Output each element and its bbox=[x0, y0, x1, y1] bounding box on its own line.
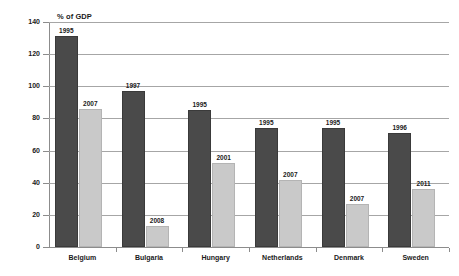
y-axis-title: % of GDP bbox=[57, 12, 92, 21]
bar-value-label: 1995 bbox=[318, 119, 349, 126]
x-axis-category-label: Bulgaria bbox=[116, 254, 183, 261]
bar bbox=[388, 133, 411, 247]
x-axis-tick bbox=[316, 248, 317, 252]
bar bbox=[279, 180, 302, 248]
bar bbox=[322, 128, 345, 247]
bar bbox=[346, 204, 369, 247]
bar bbox=[188, 110, 211, 247]
bar-value-label: 2001 bbox=[208, 154, 239, 161]
bar bbox=[212, 163, 235, 247]
bar-chart: % of GDP 020406080100120140 199520071997… bbox=[0, 0, 459, 276]
bar bbox=[55, 36, 78, 247]
x-axis-category-label: Denmark bbox=[316, 254, 383, 261]
x-axis-tick bbox=[182, 248, 183, 252]
bar-group: 19952007 bbox=[255, 22, 302, 247]
bar-group: 19952007 bbox=[322, 22, 369, 247]
y-axis-label: 60 bbox=[0, 147, 40, 154]
bar-value-label: 1995 bbox=[251, 119, 282, 126]
bar bbox=[146, 226, 169, 247]
bar-group: 19962011 bbox=[388, 22, 435, 247]
bar-value-label: 2011 bbox=[408, 180, 439, 187]
x-axis-category-label: Hungary bbox=[182, 254, 249, 261]
y-axis-tick bbox=[43, 247, 49, 248]
bar bbox=[79, 109, 102, 247]
y-axis-label: 120 bbox=[0, 50, 40, 57]
y-axis-label: 80 bbox=[0, 114, 40, 121]
bar-group: 19952007 bbox=[55, 22, 102, 247]
bar bbox=[255, 128, 278, 247]
y-axis-label: 0 bbox=[0, 243, 40, 250]
bar-value-label: 1995 bbox=[51, 27, 82, 34]
bar-value-label: 2007 bbox=[342, 195, 373, 202]
bar-value-label: 1996 bbox=[384, 124, 415, 131]
x-axis-category-label: Belgium bbox=[49, 254, 116, 261]
bar-value-label: 1995 bbox=[184, 101, 215, 108]
y-axis-label: 40 bbox=[0, 179, 40, 186]
plot-area: 1995200719972008199520011995200719952007… bbox=[49, 22, 449, 247]
bar-value-label: 1997 bbox=[118, 82, 149, 89]
y-axis-label: 100 bbox=[0, 82, 40, 89]
bar-group: 19952001 bbox=[188, 22, 235, 247]
x-axis-tick bbox=[449, 248, 450, 252]
x-axis-tick bbox=[249, 248, 250, 252]
y-axis-label: 140 bbox=[0, 18, 40, 25]
bar-value-label: 2007 bbox=[275, 171, 306, 178]
bar-group: 19972008 bbox=[122, 22, 169, 247]
bar-value-label: 2008 bbox=[142, 217, 173, 224]
bar bbox=[412, 189, 435, 247]
x-axis-tick bbox=[116, 248, 117, 252]
bar-value-label: 2007 bbox=[75, 100, 106, 107]
x-axis-category-label: Netherlands bbox=[249, 254, 316, 261]
x-axis-tick bbox=[382, 248, 383, 252]
x-axis-category-label: Sweden bbox=[382, 254, 449, 261]
y-axis-label: 20 bbox=[0, 211, 40, 218]
